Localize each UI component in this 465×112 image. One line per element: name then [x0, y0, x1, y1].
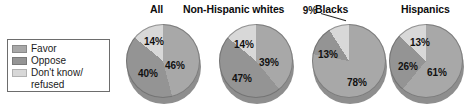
slice-label-all-favor: 46% [165, 60, 185, 71]
legend-label-oppose: Oppose [31, 55, 66, 67]
legend-item-favor: Favor [12, 43, 109, 55]
pie-chart-non-hispanic-whites: 39% 47% 14% [219, 24, 295, 106]
group-title-non-hispanic-whites: Non-Hispanic whites [183, 3, 284, 15]
pie-slices-non-hispanic-whites [219, 24, 293, 98]
slice-label-all-oppose: 40% [138, 68, 158, 79]
legend-label-favor: Favor [31, 43, 57, 55]
legend-swatch-favor [12, 45, 27, 53]
legend-swatch-oppose [12, 57, 27, 65]
slice-label-hispanics-dont-know: 13% [410, 37, 430, 48]
slice-label-nhw-oppose: 47% [232, 73, 252, 84]
pie-chart-all: 46% 40% 14% [126, 24, 202, 106]
pie-chart-hispanics: 61% 26% 13% [389, 24, 465, 106]
pie-chart-blacks: 78% 13% 9% [312, 24, 388, 106]
group-title-hispanics: Hispanics [401, 3, 450, 15]
slice-label-hispanics-oppose: 26% [398, 61, 418, 72]
slice-label-nhw-favor: 39% [259, 57, 279, 68]
legend-label-dont-know-line2: refused [31, 79, 109, 91]
pie-chart-figure: Favor Oppose Don't know/ refused All Non… [0, 0, 465, 112]
chart-legend: Favor Oppose Don't know/ refused [7, 39, 110, 92]
legend-swatch-dont-know [12, 69, 27, 77]
legend-item-dont-know: Don't know/ [12, 67, 109, 79]
group-title-all: All [150, 3, 163, 15]
slice-label-all-dont-know: 14% [144, 36, 164, 47]
slice-label-blacks-favor: 78% [347, 77, 367, 88]
slice-label-hispanics-favor: 61% [427, 67, 447, 78]
slice-label-blacks-dont-know: 9% [303, 5, 317, 16]
legend-label-dont-know: Don't know/ [31, 67, 83, 79]
slice-label-nhw-dont-know: 14% [234, 39, 254, 50]
legend-item-oppose: Oppose [12, 55, 109, 67]
slice-label-blacks-oppose: 13% [318, 49, 338, 60]
